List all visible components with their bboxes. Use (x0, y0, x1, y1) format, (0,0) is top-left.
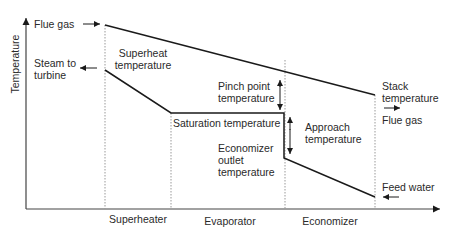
flue-gas-in-label: Flue gas (34, 18, 74, 30)
superheat-temperature-label: Superheat temperature (110, 47, 176, 71)
pinch-point-temperature-label: Pinch point temperature (218, 80, 280, 104)
y-axis-label: Temperature (9, 29, 21, 99)
approach-temperature-label: Approach temperature (305, 121, 371, 145)
economizer-outlet-temperature-label: Economizer outlet temperature (218, 142, 282, 178)
section-evaporator: Evaporator (185, 215, 275, 227)
feed-water-label: Feed water (382, 181, 435, 193)
flue-gas-out-label: Flue gas (382, 114, 422, 126)
section-superheater: Superheater (105, 213, 171, 225)
saturation-temperature-label: Saturation temperature (173, 117, 280, 129)
stack-temperature-label: Stack temperature (382, 80, 442, 104)
steam-to-turbine-label: Steam to turbine (34, 57, 79, 81)
section-economizer: Economizer (285, 215, 375, 227)
